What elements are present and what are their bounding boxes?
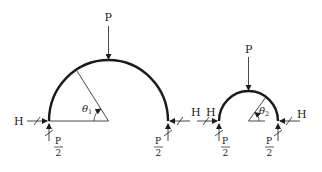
small-arch-group: θ2 P P 2 H P 2 (197, 43, 307, 158)
svg-text:2: 2 (156, 148, 162, 158)
large-angle-label: θ1 (82, 103, 92, 116)
small-left-reaction-label: P 2 (221, 136, 230, 158)
svg-text:2: 2 (267, 148, 273, 158)
svg-text:P: P (55, 136, 61, 146)
small-load-label: P (245, 43, 253, 56)
small-angle-label: θ2 (259, 105, 269, 118)
svg-text:2: 2 (56, 148, 62, 158)
svg-text:P: P (266, 136, 272, 146)
large-right-h-label: H (191, 106, 201, 119)
svg-text:P: P (155, 136, 161, 146)
large-load-label: P (105, 11, 113, 24)
large-angle-arc (94, 109, 101, 121)
svg-text:P: P (222, 136, 228, 146)
arch-diagram: θ1 P H P 2 H P 2 θ2 (0, 0, 322, 172)
large-right-reaction-label: P 2 (154, 136, 163, 158)
small-right-reaction-label: P 2 (265, 136, 274, 158)
small-right-h-label: H (297, 108, 307, 121)
large-arch-group: θ1 P H P 2 H P 2 (14, 11, 201, 158)
large-left-h-label: H (14, 115, 24, 128)
large-left-reaction-label: P 2 (54, 136, 63, 158)
large-arch-curve (49, 60, 168, 121)
small-left-h-label: H (206, 106, 216, 119)
svg-text:2: 2 (223, 148, 229, 158)
